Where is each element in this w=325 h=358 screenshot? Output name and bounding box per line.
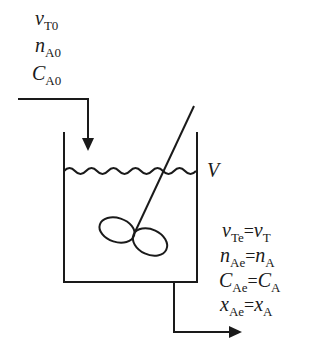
liquid-surface [64,168,196,174]
volume-label: V [207,159,222,181]
inlet-stream [18,99,94,151]
outlet-equation-conversion: xAe=xA [219,293,273,319]
impeller-blade-left [96,213,138,247]
inlet-label-flow: vT0 [35,7,58,33]
agitator [96,106,194,261]
inlet-labels: vT0 nA0 CA0 [32,7,61,88]
outlet-equation-concentration: CAe=CA [219,269,281,295]
impeller-blade-right [128,223,171,261]
inlet-label-concentration: CA0 [32,62,61,88]
outlet-equation-flow: vTe=vT [222,219,271,245]
outlet-equation-moles: nAe=nA [220,244,275,270]
cstr-diagram: vT0 nA0 CA0 V vTe=vT nAe=nA CAe=CA xAe=x… [0,0,325,358]
inlet-arrow-icon [82,138,94,151]
agitator-shaft [135,106,194,232]
tank-vessel [64,132,197,282]
inlet-pipe [18,99,88,140]
outlet-equations: vTe=vT nAe=nA CAe=CA xAe=xA [219,219,281,319]
outlet-arrow-icon [229,326,242,338]
inlet-label-moles: nA0 [35,34,61,60]
